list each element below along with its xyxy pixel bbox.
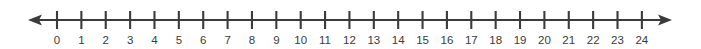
tick-label: 4	[151, 34, 158, 46]
tick-label: 20	[538, 34, 551, 46]
tick-label: 3	[127, 34, 133, 46]
tick-label: 11	[319, 34, 331, 46]
number-line-figure: 0123456789101112131415161718192021222324	[0, 0, 701, 49]
tick-label: 19	[514, 34, 527, 46]
tick-label: 7	[224, 34, 230, 46]
tick-label: 5	[176, 34, 182, 46]
tick-label: 13	[367, 34, 380, 46]
tick-label: 23	[611, 34, 624, 46]
tick-label: 15	[416, 34, 429, 46]
number-line-canvas: 0123456789101112131415161718192021222324	[0, 0, 701, 49]
tick-label: 10	[294, 34, 307, 46]
tick-label: 16	[441, 34, 454, 46]
tick-label: 1	[78, 34, 84, 46]
tick-label: 22	[587, 34, 600, 46]
tick-label: 12	[343, 34, 356, 46]
tick-label: 9	[273, 34, 279, 46]
tick-label: 8	[249, 34, 255, 46]
tick-label: 14	[392, 34, 405, 46]
tick-label: 0	[54, 34, 60, 46]
tick-label: 24	[635, 34, 648, 46]
tick-label: 18	[489, 34, 502, 46]
tick-label: 2	[103, 34, 109, 46]
tick-label: 17	[465, 34, 478, 46]
tick-label: 21	[562, 34, 575, 46]
tick-label: 6	[200, 34, 206, 46]
tick-labels-group: 0123456789101112131415161718192021222324	[54, 34, 649, 46]
